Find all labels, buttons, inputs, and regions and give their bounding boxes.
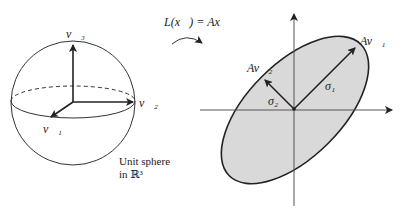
- sigma2-label: σ₂: [268, 95, 278, 107]
- v3-label: v⃗₃: [66, 28, 85, 40]
- v1-arrow: [51, 102, 73, 117]
- sphere-caption-line1: Unit sphere: [119, 155, 170, 168]
- v2-label: v⃗₂: [139, 97, 158, 109]
- Av2-label: Av⃗₂: [247, 62, 273, 74]
- v1-label: v⃗₁: [43, 123, 62, 135]
- transform-label: L(x⃗) = Ax⃗: [164, 16, 229, 28]
- svd-diagram: [0, 0, 403, 215]
- sigma1-label: σ₁: [325, 80, 335, 92]
- unit-sphere: [11, 41, 135, 165]
- Av1-label: Av⃗₁: [360, 35, 386, 47]
- transform-arrow: [172, 38, 202, 44]
- sphere-caption-line2: in ℝ³: [119, 168, 143, 181]
